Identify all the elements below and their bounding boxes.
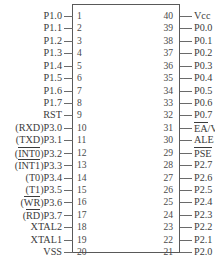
pin-label: P0.0: [194, 22, 212, 34]
pin-row-right: 26P2.5: [0, 184, 215, 196]
pin-label-active-low: EA: [194, 122, 208, 134]
pin-row-right: 34P0.5: [0, 85, 215, 97]
pin-label-suffix: Vcc: [194, 10, 210, 21]
pin-lead-line: [180, 78, 192, 79]
pin-lead-line: [180, 66, 192, 67]
pin-lead-line: [180, 227, 192, 228]
pin-lead-line: [180, 240, 192, 241]
pin-row-right: 30ALE: [0, 134, 215, 146]
pin-row-right: 36P0.3: [0, 60, 215, 72]
pin-label: P2.6: [194, 172, 212, 184]
pin-label: P0.2: [194, 47, 212, 59]
pin-number: 32: [140, 109, 173, 121]
pin-number: 21: [140, 246, 173, 258]
pin-lead-line: [180, 202, 192, 203]
pin-label-suffix: P0.1: [194, 35, 212, 46]
pin-label: P2.3: [194, 209, 212, 221]
pin-row-right: 27P2.6: [0, 172, 215, 184]
pin-lead-line: [180, 215, 192, 216]
pin-lead-line: [180, 41, 192, 42]
pin-number: 26: [140, 184, 173, 196]
pin-label: P2.4: [194, 196, 212, 208]
pin-label: P0.1: [194, 35, 212, 47]
pin-number: 36: [140, 60, 173, 72]
pin-number: 24: [140, 209, 173, 221]
pin-lead-line: [180, 115, 192, 116]
pin-number: 40: [140, 10, 173, 22]
pin-row-right: 39P0.0: [0, 22, 215, 34]
pin-label: P2.1: [194, 234, 212, 246]
pin-label-suffix: P2.2: [194, 221, 212, 232]
pin-row-right: 28P2.7: [0, 159, 215, 171]
pin-label: P2.0: [194, 246, 212, 258]
pin-label-active-low: PSE: [194, 147, 212, 159]
pin-number: 39: [140, 22, 173, 34]
pin-lead-line: [180, 252, 192, 253]
pin-label: P0.6: [194, 97, 212, 109]
pin-lead-line: [180, 165, 192, 166]
pin-row-right: 38P0.1: [0, 35, 215, 47]
pin-row-right: 25P2.4: [0, 196, 215, 208]
pin-row-right: 29PSE: [0, 147, 215, 159]
pin-label: P0.7: [194, 109, 212, 121]
pin-number: 29: [140, 147, 173, 159]
pin-row-right: 33P0.6: [0, 97, 215, 109]
pin-number: 33: [140, 97, 173, 109]
pin-number: 22: [140, 234, 173, 246]
pin-label-suffix: P0.0: [194, 22, 212, 33]
pin-label: P2.7: [194, 159, 212, 171]
pin-number: 23: [140, 221, 173, 233]
pin-label-suffix: P0.4: [194, 72, 212, 83]
pin-lead-line: [180, 190, 192, 191]
pin-row-right: 24P2.3: [0, 209, 215, 221]
pin-row-right: 31EA/V: [0, 122, 215, 134]
pin-label-suffix: P2.0: [194, 246, 212, 257]
pin-label: P0.3: [194, 60, 212, 72]
pin-row-right: 37P0.2: [0, 47, 215, 59]
pin-label-suffix: P2.5: [194, 184, 212, 195]
pin-label-suffix: P0.3: [194, 60, 212, 71]
pin-lead-line: [180, 103, 192, 104]
pin-label-suffix: P2.1: [194, 234, 212, 245]
pin-label-suffix: P2.7: [194, 159, 212, 170]
pin-lead-line: [180, 178, 192, 179]
pin-lead-line: [180, 153, 192, 154]
pin-row-right: 35P0.4: [0, 72, 215, 84]
pin-label: Vcc: [194, 10, 210, 22]
pin-number: 37: [140, 47, 173, 59]
pin-label: ALE: [194, 134, 214, 146]
pin-row-right: 40Vcc: [0, 10, 215, 22]
pin-label-suffix: ALE: [194, 134, 214, 145]
pin-label-suffix: /V: [208, 123, 215, 134]
pin-label-suffix: P2.4: [194, 196, 212, 207]
chip-pinout-diagram: P1.01P1.12P1.23P1.34P1.45P1.56P1.67P1.78…: [0, 0, 215, 267]
pin-lead-line: [180, 91, 192, 92]
pin-lead-line: [180, 53, 192, 54]
pin-label: EA/V: [194, 122, 215, 135]
pin-row-right: 21P2.0: [0, 246, 215, 258]
pin-lead-line: [180, 28, 192, 29]
pin-label-suffix: P2.6: [194, 172, 212, 183]
pin-lead-line: [180, 128, 192, 129]
pin-label: P2.2: [194, 221, 212, 233]
pin-label-suffix: P0.6: [194, 97, 212, 108]
pin-lead-line: [180, 16, 192, 17]
pin-row-right: 22P2.1: [0, 234, 215, 246]
pin-number: 25: [140, 196, 173, 208]
pin-number: 34: [140, 85, 173, 97]
pin-number: 31: [140, 122, 173, 134]
pin-number: 38: [140, 35, 173, 47]
pin-number: 30: [140, 134, 173, 146]
pin-label: P2.5: [194, 184, 212, 196]
pin-label-suffix: P2.3: [194, 209, 212, 220]
pin-lead-line: [180, 140, 192, 141]
pin-label: P0.5: [194, 85, 212, 97]
pin-number: 28: [140, 159, 173, 171]
pin-number: 27: [140, 172, 173, 184]
pin-label: P0.4: [194, 72, 212, 84]
pin-row-right: 23P2.2: [0, 221, 215, 233]
pin-label-suffix: P0.2: [194, 47, 212, 58]
pin-row-right: 32P0.7: [0, 109, 215, 121]
pin-label-suffix: P0.7: [194, 109, 212, 120]
pin-label-suffix: P0.5: [194, 85, 212, 96]
